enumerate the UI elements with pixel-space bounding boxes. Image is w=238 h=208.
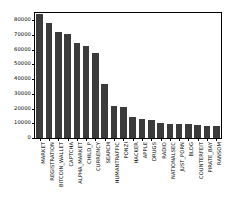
y-axis-tick-label: 10000 (14, 121, 31, 126)
x-axis-tick (68, 138, 69, 141)
x-axis-tick (207, 138, 208, 141)
x-axis-tick (86, 138, 87, 141)
y-axis-tick (32, 64, 35, 65)
x-axis-tick (188, 138, 189, 141)
x-axis-tick-label: ALPHA_MARKET (78, 142, 83, 184)
bar (157, 123, 164, 138)
x-axis-tick-label: CAPTCHA (69, 142, 74, 167)
x-axis-tick-label: RANSOM (217, 142, 222, 165)
y-axis-tick (32, 138, 35, 139)
x-axis-tick (123, 138, 124, 141)
plot-area: 0100002000030000400005000060000700008000… (34, 12, 222, 139)
x-axis-tick (77, 138, 78, 141)
x-axis-tick (142, 138, 143, 141)
x-axis-tick-label: PIRATE_BAY (208, 142, 213, 173)
bar (46, 23, 53, 138)
x-axis-tick-label: BITCOIN_WALLET (59, 142, 64, 187)
x-axis-tick-label: REGISTRATION (50, 142, 55, 181)
bar (129, 117, 136, 138)
y-axis-tick (32, 123, 35, 124)
x-axis-tick (114, 138, 115, 141)
x-axis-tick (198, 138, 199, 141)
bar (204, 126, 211, 138)
bar (176, 124, 183, 138)
x-axis-tick-label: PONZI (124, 142, 129, 158)
x-axis-tick-label: CURRENCY (96, 142, 101, 171)
bar (194, 125, 201, 138)
bar (120, 107, 127, 138)
x-axis-tick (161, 138, 162, 141)
x-axis-tick-label: JUST_PORN (180, 142, 185, 172)
x-axis-tick-label: HACKER (134, 142, 139, 164)
y-axis-tick-label: 80000 (14, 18, 31, 23)
x-axis-tick (133, 138, 134, 141)
y-axis-tick (32, 79, 35, 80)
x-axis-tick (170, 138, 171, 141)
y-axis-tick-label: 40000 (14, 77, 31, 82)
bar (185, 124, 192, 138)
x-axis-tick (58, 138, 59, 141)
x-axis-tick-label: COUNTERFEIT (199, 142, 204, 179)
bar (167, 124, 174, 138)
bar (74, 43, 81, 138)
x-axis-tick-label: DRUGS (152, 142, 157, 161)
y-axis-tick-label: 20000 (14, 106, 31, 111)
y-axis-tick (32, 20, 35, 21)
figure: 0100002000030000400005000060000700008000… (0, 0, 238, 208)
bar (139, 119, 146, 138)
y-axis-tick-label: 50000 (14, 62, 31, 67)
y-axis-tick (32, 35, 35, 36)
bar (111, 106, 118, 138)
bar (92, 53, 99, 138)
x-axis-tick-label: NATIONALSEC (171, 142, 176, 179)
x-axis-tick (40, 138, 41, 141)
y-axis-tick-label: 30000 (14, 91, 31, 96)
y-axis-tick (32, 109, 35, 110)
y-axis-tick-label: 0 (28, 135, 31, 140)
x-axis-tick-label: SEARCH (106, 142, 111, 163)
bar (36, 14, 43, 138)
bars-layer (35, 13, 221, 138)
x-axis-tick-label: BLOG (189, 142, 194, 157)
bar (55, 32, 62, 138)
x-axis-tick (151, 138, 152, 141)
x-axis-tick-label: CHILD_P (87, 142, 92, 164)
x-axis-tick-label: MARKET (41, 142, 46, 164)
bar (83, 46, 90, 138)
bar (148, 120, 155, 138)
bar (213, 126, 220, 138)
y-axis-tick (32, 50, 35, 51)
x-axis-tick (49, 138, 50, 141)
bar (64, 34, 71, 138)
x-axis-tick-label: HUMANTRAFFIC (115, 142, 120, 183)
y-axis-tick-label: 70000 (14, 32, 31, 37)
y-axis-tick (32, 94, 35, 95)
x-axis-tick-label: RADIO (162, 142, 167, 159)
x-axis-tick (216, 138, 217, 141)
x-axis-tick (95, 138, 96, 141)
x-axis-tick-label: APPLE (143, 142, 148, 158)
x-axis-tick (105, 138, 106, 141)
y-axis-tick-label: 60000 (14, 47, 31, 52)
bar (101, 84, 108, 138)
